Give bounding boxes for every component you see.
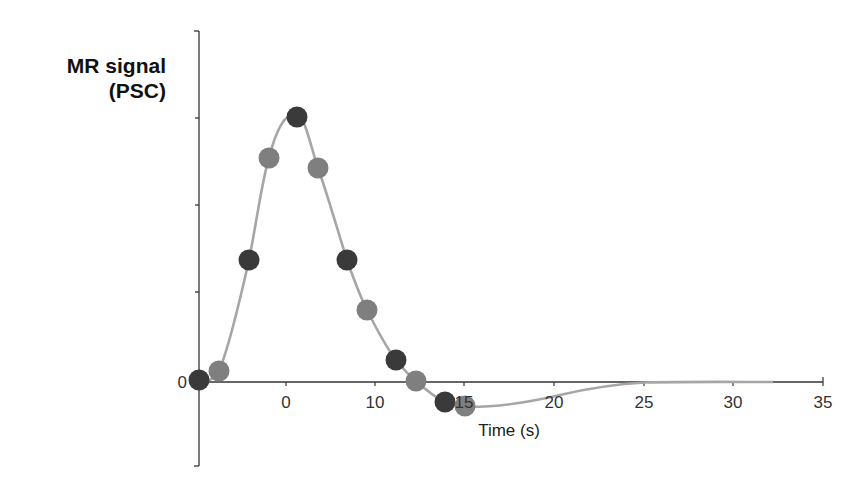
- y-axis: 0: [178, 31, 199, 466]
- sample-points: [189, 107, 476, 417]
- y-tick-label-zero: 0: [178, 373, 187, 392]
- data-point: [189, 370, 210, 391]
- data-point: [337, 250, 358, 271]
- data-point: [287, 107, 308, 128]
- x-tick-label: 30: [724, 393, 743, 412]
- data-point: [308, 158, 329, 179]
- x-tick-label: 0: [281, 393, 290, 412]
- data-point: [209, 361, 230, 382]
- chart-plot: 0 0 10 15 20 25 30 35 Time (s: [0, 0, 859, 495]
- x-tick-label: 35: [814, 393, 833, 412]
- data-point: [386, 350, 407, 371]
- x-tick-label: 25: [635, 393, 654, 412]
- hrf-curve: [199, 114, 773, 407]
- data-point: [259, 148, 280, 169]
- x-axis-title: Time (s): [478, 421, 540, 440]
- data-point: [239, 250, 260, 271]
- x-tick-label: 20: [545, 393, 564, 412]
- x-tick-labels: 0 10 15 20 25 30 35: [281, 393, 832, 412]
- x-tick-label: 10: [366, 393, 385, 412]
- x-tick-label: 15: [455, 393, 474, 412]
- data-point: [435, 392, 456, 413]
- data-point: [357, 300, 378, 321]
- data-point: [406, 371, 427, 392]
